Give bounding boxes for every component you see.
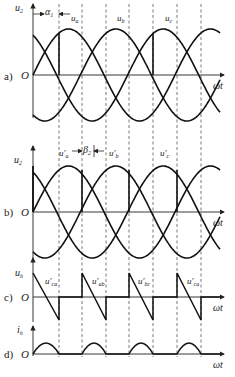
panel-label-c: c) <box>4 291 13 304</box>
curve-label-ub-prime: u′b <box>109 148 118 159</box>
y-axis-label-d: ih <box>17 324 23 336</box>
beta2-label: β2 <box>82 144 91 156</box>
current-pulses-d <box>33 343 220 354</box>
origin-label-c: O <box>21 291 29 303</box>
y-axis-label-c: uh <box>15 267 23 279</box>
panel-label-a: a) <box>4 70 13 83</box>
panel-label-d: d) <box>4 348 14 361</box>
x-axis-label-d: ωt <box>213 359 223 370</box>
curve-label-ub: ub <box>117 13 125 24</box>
panel-b: b) O u2 β2 u′a u′b u′c ωt <box>4 144 224 258</box>
y-axis-label-a: u2 <box>15 2 23 14</box>
panel-c: c) O uh u′ca u′ab u′bc u′ca ωt <box>4 258 224 322</box>
curve-label-uca-1: u′ca <box>45 276 57 287</box>
panel-d: d) O ih ωt <box>4 324 224 370</box>
panel-label-b: b) <box>4 206 14 219</box>
origin-label-b: O <box>21 206 29 218</box>
origin-label-d: O <box>21 348 29 360</box>
curve-label-ua-prime: u′a <box>59 148 68 159</box>
curve-label-ua: ua <box>71 13 79 24</box>
curve-label-ubc: u′bc <box>138 276 150 287</box>
alpha1-label: α1 <box>45 6 53 18</box>
waveform-figure: a) O u2 α1 ua ub uc ωt b) O u2 β2 u′a u′… <box>0 0 235 377</box>
curve-label-uab: u′ab <box>92 276 104 287</box>
y-axis-label-b: u2 <box>14 154 22 166</box>
curve-label-uc-prime: u′c <box>160 148 169 159</box>
curve-label-uc: uc <box>165 13 173 24</box>
origin-label-a: O <box>21 69 29 81</box>
x-axis-label-c: ωt <box>213 302 223 313</box>
dashed-guides <box>59 4 201 357</box>
x-axis-label-b: ωt <box>213 217 223 228</box>
curve-label-uca-2: u′ca <box>187 276 199 287</box>
panel-a: a) O u2 α1 ua ub uc ωt <box>4 2 224 121</box>
x-axis-label-a: ωt <box>213 80 223 91</box>
